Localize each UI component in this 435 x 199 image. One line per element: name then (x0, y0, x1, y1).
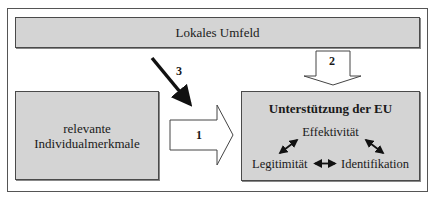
eu-support-title: Unterstützung der EU (242, 101, 419, 117)
identifikation-label: Identifikation (341, 157, 409, 172)
lokales-umfeld-label: Lokales Umfeld (175, 25, 259, 41)
arrow-1-label: 1 (196, 128, 202, 143)
individualmerkmale-box: relevante Individualmerkmale (15, 91, 159, 180)
lokales-umfeld-box: Lokales Umfeld (15, 17, 420, 48)
arrow-3-label: 3 (176, 64, 182, 79)
individualmerkmale-line1: relevante (34, 121, 139, 136)
legitimitaet-label: Legitimität (252, 157, 308, 172)
eu-support-box: Unterstützung der EU Effektivität Legiti… (241, 91, 420, 181)
arrow-2-label: 2 (329, 54, 335, 69)
individualmerkmale-line2: Individualmerkmale (34, 136, 139, 151)
effektivitaet-label: Effektivität (242, 125, 419, 140)
